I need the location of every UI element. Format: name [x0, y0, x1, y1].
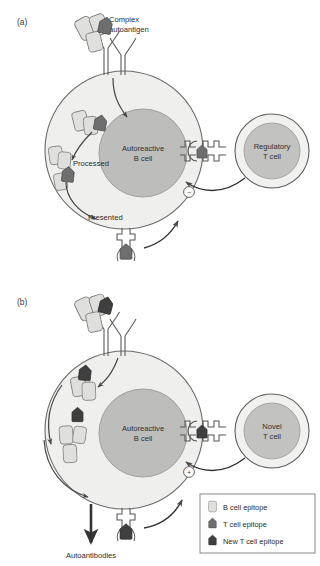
panel-a-b-cell: Autoreactive B cell: [45, 71, 203, 229]
panel-a-regulatory-t-cell: Regulatory T cell: [235, 114, 309, 188]
panel-a-label: (a): [17, 17, 28, 27]
panel-b-b-cell-label-line2: B cell: [134, 434, 153, 443]
b-cell-epitope-icon: [208, 501, 216, 512]
panel-a-inhibition-sign: −: [184, 187, 195, 198]
panel-a-b-cell-label-line1: Autoreactive: [122, 144, 164, 153]
legend-label-t-cell-epitope: T cell epitope: [223, 520, 267, 529]
diagram-svg: (a) Complex autoantigen Autoreactive B c…: [0, 0, 320, 566]
legend-label-new-t-cell-epitope: New T cell epitope: [223, 537, 284, 546]
b-cell-epitope-shape: [82, 382, 96, 400]
panel-b-b-cell-nucleus: [99, 389, 187, 477]
panel-a-antigen-label-line1: Complex: [109, 15, 139, 24]
panel-a-antigen-label-line2: autoantigen: [109, 25, 149, 34]
panel-b-b-cell-label-line1: Autoreactive: [122, 424, 164, 433]
panel-a-t-cell-nucleus: [244, 123, 300, 179]
legend-label-b-cell-epitope: B cell epitope: [223, 503, 267, 512]
plus-sign-glyph: +: [187, 469, 191, 476]
panel-b-output-label: Autoantibodies: [66, 551, 116, 560]
legend: B cell epitope T cell epitope New T cell…: [200, 494, 315, 553]
b-cell-epitope-shape: [72, 426, 87, 444]
panel-b-label: (b): [17, 297, 28, 307]
panel-b-novel-t-cell: Novel T cell: [235, 394, 309, 468]
minus-sign-glyph: −: [187, 189, 191, 196]
panel-a-presented-label: Presented: [88, 213, 123, 222]
panel-b-t-cell-label-line1: Novel: [262, 422, 282, 431]
b-cell-epitope-shape: [59, 426, 74, 445]
b-cell-epitope-shape: [63, 444, 77, 463]
panel-a-t-cell-label-line1: Regulatory: [254, 142, 291, 151]
panel-b-t-cell-nucleus: [244, 403, 300, 459]
panel-a-t-cell-label-line2: T cell: [263, 152, 281, 161]
panel-a-b-cell-nucleus: [99, 109, 187, 197]
panel-b-activation-sign: +: [184, 467, 195, 478]
panel-b-t-cell-label-line2: T cell: [263, 432, 281, 441]
figure-canvas: (a) Complex autoantigen Autoreactive B c…: [0, 0, 320, 566]
panel-a-b-cell-label-line2: B cell: [134, 154, 153, 163]
panel-a-processed-label: Processed: [73, 159, 109, 168]
